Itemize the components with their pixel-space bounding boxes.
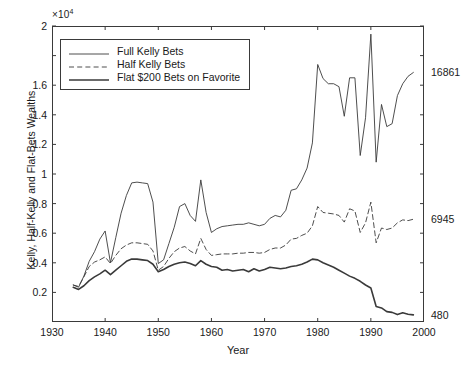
chart-legend: Full Kelly BetsHalf Kelly BetsFlat $200 …: [60, 39, 250, 90]
legend-entry-0: Full Kelly Bets: [68, 45, 240, 58]
y-tick-label-9: 2: [1, 20, 52, 32]
y-axis-multiplier: ×104: [52, 8, 74, 20]
chart-figure: ×104 0.20.40.60.811.21.41.62 16861694548…: [0, 0, 476, 371]
legend-entry-1: Half Kelly Bets: [68, 58, 240, 71]
x-tick-label-1950: 1950: [147, 326, 170, 338]
right-annotation-16861: 16861: [424, 66, 460, 78]
legend-line-sample-icon: [68, 46, 110, 58]
right-annotation-6945: 6945: [424, 213, 454, 225]
right-axis-annotations: 168616945480: [424, 0, 476, 371]
x-axis-label: Year: [52, 344, 424, 356]
y-axis-multiplier-exponent: 4: [70, 8, 74, 15]
x-tick-label-2000: 2000: [412, 326, 435, 338]
x-tick-label-1970: 1970: [253, 326, 276, 338]
legend-label: Flat $200 Bets on Favorite: [117, 71, 240, 84]
right-annotation-480: 480: [424, 309, 449, 321]
x-tick-label-1980: 1980: [306, 326, 329, 338]
legend-label: Half Kelly Bets: [117, 58, 185, 71]
y-axis-multiplier-base: ×10: [52, 9, 70, 20]
legend-label: Full Kelly Bets: [117, 45, 184, 58]
x-tick-label-1960: 1960: [200, 326, 223, 338]
legend-line-sample-icon: [68, 72, 110, 84]
x-tick-label-1990: 1990: [359, 326, 382, 338]
legend-entry-2: Flat $200 Bets on Favorite: [68, 71, 240, 84]
x-tick-label-1930: 1930: [40, 326, 63, 338]
legend-line-sample-icon: [68, 59, 110, 71]
x-tick-label-1940: 1940: [93, 326, 116, 338]
y-axis-label: Kelly, Half-Kelly and Flat-Bets Wealths: [25, 55, 37, 305]
